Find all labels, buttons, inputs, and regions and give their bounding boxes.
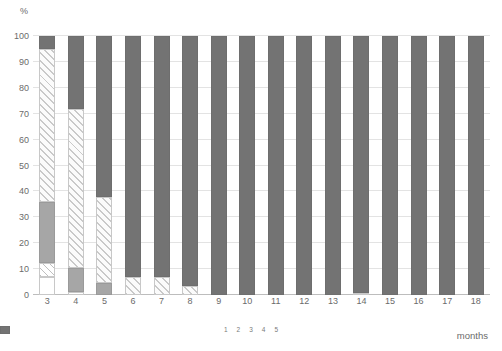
x-axis-tick-label: 10 <box>242 297 252 306</box>
bar-segment-series-5 <box>382 36 398 295</box>
bar-column <box>96 36 112 295</box>
bar-column <box>211 36 227 295</box>
x-axis-tick-label: 8 <box>188 297 193 306</box>
bar-column <box>353 36 369 295</box>
legend-label: 2 <box>237 327 241 334</box>
bar-segment-series-5 <box>182 36 198 286</box>
bar-segment-series-5 <box>39 36 55 49</box>
bar-column <box>468 36 484 295</box>
legend-item-1: 1 <box>224 327 228 334</box>
x-axis-tick-labels: 3456789101112131415161718 <box>33 297 490 313</box>
x-axis-tick-label: 17 <box>442 297 452 306</box>
y-axis-tick-label: 30 <box>5 213 29 222</box>
x-axis-tick-label: 9 <box>216 297 221 306</box>
y-axis-unit-label: % <box>20 6 28 16</box>
bar-segment-series-1 <box>353 293 369 295</box>
y-axis-tick-label: 20 <box>5 239 29 248</box>
bar-column <box>325 36 341 295</box>
legend-label: 5 <box>274 327 278 334</box>
bar-stack <box>125 36 141 295</box>
x-axis-tick-label: 4 <box>73 297 78 306</box>
bar-stack <box>68 36 84 295</box>
bar-segment-series-5 <box>353 36 369 293</box>
bar-stack <box>96 36 112 295</box>
bar-segment-series-5 <box>439 36 455 295</box>
legend-swatch-5 <box>0 326 10 334</box>
x-axis-tick-label: 6 <box>130 297 135 306</box>
bar-column <box>268 36 284 295</box>
x-axis-tick-label: 14 <box>356 297 366 306</box>
stacked-bar-chart: % 0102030405060708090100 345678910111213… <box>0 0 502 351</box>
bar-segment-series-1 <box>68 292 84 295</box>
y-axis-tick-label: 10 <box>5 265 29 274</box>
bar-segment-series-5 <box>125 36 141 277</box>
bar-column <box>382 36 398 295</box>
legend-label: 4 <box>262 327 266 334</box>
bar-column <box>125 36 141 295</box>
x-axis-tick-label: 18 <box>471 297 481 306</box>
bar-segment-series-3 <box>68 268 84 293</box>
legend-item-5: 5 <box>274 327 278 334</box>
y-axis-tick-labels: 0102030405060708090100 <box>0 36 29 295</box>
bar-segment-series-5 <box>296 36 312 295</box>
bar-segment-series-5 <box>96 36 112 197</box>
bar-column <box>154 36 170 295</box>
bar-stack <box>382 36 398 295</box>
bar-stack <box>268 36 284 295</box>
bar-stack <box>439 36 455 295</box>
bar-column <box>296 36 312 295</box>
x-axis-tick-label: 16 <box>414 297 424 306</box>
y-axis-tick-label: 0 <box>5 291 29 300</box>
bar-segment-series-4 <box>182 286 198 295</box>
bar-column <box>68 36 84 295</box>
bar-segment-series-4 <box>125 277 141 295</box>
y-axis-tick-label: 40 <box>5 187 29 196</box>
bar-stack <box>353 36 369 295</box>
bar-stack <box>154 36 170 295</box>
x-axis-tick-label: 13 <box>328 297 338 306</box>
bar-segment-series-4 <box>68 109 84 268</box>
bar-segment-series-5 <box>468 36 484 295</box>
legend-item-4: 4 <box>262 327 266 334</box>
chart-legend: 12345 <box>0 327 502 334</box>
bar-segment-series-5 <box>325 36 341 295</box>
bar-column <box>39 36 55 295</box>
y-axis-tick-label: 100 <box>5 32 29 41</box>
bar-series-container <box>33 36 490 295</box>
bar-stack <box>296 36 312 295</box>
bar-segment-series-5 <box>154 36 170 277</box>
bar-stack <box>411 36 427 295</box>
bar-column <box>411 36 427 295</box>
y-axis-tick-label: 70 <box>5 109 29 118</box>
bar-segment-series-4 <box>39 49 55 202</box>
y-axis-tick-label: 50 <box>5 161 29 170</box>
y-axis-tick-label: 80 <box>5 83 29 92</box>
bar-segment-series-5 <box>68 36 84 109</box>
bar-segment-series-1 <box>39 277 55 295</box>
x-axis-tick-label: 7 <box>159 297 164 306</box>
bar-stack <box>211 36 227 295</box>
bar-segment-series-5 <box>268 36 284 295</box>
bar-stack <box>239 36 255 295</box>
legend-label: 1 <box>224 327 228 334</box>
x-axis-tick-label: 15 <box>385 297 395 306</box>
bar-column <box>239 36 255 295</box>
y-axis-tick-label: 90 <box>5 57 29 66</box>
legend-label: 3 <box>249 327 253 334</box>
legend-item-2: 2 <box>237 327 241 334</box>
plot-area <box>33 36 490 295</box>
bar-segment-series-5 <box>411 36 427 295</box>
bar-stack <box>468 36 484 295</box>
x-axis-tick-label: 11 <box>271 297 280 306</box>
bar-column <box>439 36 455 295</box>
bar-column <box>182 36 198 295</box>
x-axis-tick-label: 12 <box>299 297 309 306</box>
bar-segment-series-4 <box>154 277 170 295</box>
bar-segment-series-3 <box>39 202 55 263</box>
y-axis-tick-label: 60 <box>5 135 29 144</box>
bar-stack <box>325 36 341 295</box>
bar-segment-series-5 <box>211 36 227 295</box>
x-axis-tick-label: 3 <box>45 297 50 306</box>
bar-segment-series-5 <box>239 36 255 295</box>
bar-segment-series-2 <box>39 263 55 277</box>
